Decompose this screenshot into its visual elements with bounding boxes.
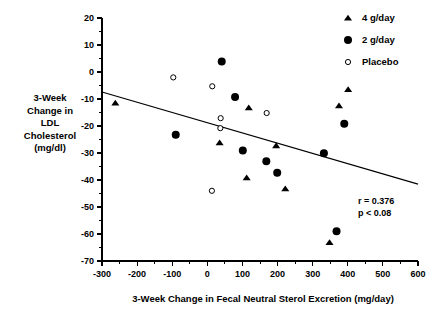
x-tick-label: -100 bbox=[163, 269, 181, 279]
data-point-triangle bbox=[344, 86, 352, 92]
y-axis-title-line: Cholesterol bbox=[24, 130, 76, 141]
y-axis-title-line: Change in bbox=[27, 105, 73, 116]
series-4-g-day bbox=[111, 86, 352, 245]
y-tick-label: -10 bbox=[81, 94, 94, 104]
y-tick-label: 0 bbox=[89, 67, 94, 77]
data-point-circle bbox=[172, 131, 180, 139]
y-tick-label: 10 bbox=[84, 40, 94, 50]
y-tick-label: -30 bbox=[81, 148, 94, 158]
y-axis-title-line: LDL bbox=[41, 117, 60, 128]
data-point-circle bbox=[218, 57, 226, 65]
y-tick-label: 20 bbox=[84, 13, 94, 23]
data-point-open-circle bbox=[171, 75, 176, 80]
data-point-circle bbox=[340, 120, 348, 128]
x-tick-label: 100 bbox=[235, 269, 250, 279]
regression-trend-line bbox=[102, 92, 418, 184]
trend-line-segment bbox=[102, 92, 418, 184]
legend-label-placebo: Placebo bbox=[362, 56, 399, 67]
data-point-circle bbox=[231, 93, 239, 101]
x-tick-label: -300 bbox=[93, 269, 111, 279]
scatter-plot-figure: 20100-10-20-30-40-50-60-70 -300-200-1000… bbox=[0, 0, 443, 313]
data-point-open-circle bbox=[264, 110, 269, 115]
data-point-triangle bbox=[245, 105, 253, 111]
data-point-triangle bbox=[216, 139, 224, 145]
r-value-annotation: r = 0.376 bbox=[358, 196, 394, 206]
y-axis-title: 3-WeekChange inLDLCholesterol(mg/dl) bbox=[24, 92, 76, 153]
p-value-annotation: p < 0.08 bbox=[358, 208, 391, 218]
axes bbox=[102, 18, 418, 261]
x-axis-tick-labels: -300-200-1000100200300400500600 bbox=[93, 269, 426, 279]
data-point-circle bbox=[262, 157, 270, 165]
data-point-open-circle bbox=[218, 116, 223, 121]
data-point-circle bbox=[239, 147, 247, 155]
y-axis-tick-labels: 20100-10-20-30-40-50-60-70 bbox=[81, 13, 94, 266]
data-point-triangle bbox=[111, 100, 119, 106]
x-tick-label: 200 bbox=[270, 269, 285, 279]
legend-marker-open-circle bbox=[345, 59, 350, 64]
series-2-g-day bbox=[172, 57, 349, 235]
x-tick-label: 400 bbox=[340, 269, 355, 279]
data-point-triangle bbox=[335, 102, 343, 108]
y-tick-label: -20 bbox=[81, 121, 94, 131]
legend-label-2-g-day: 2 g/day bbox=[362, 34, 395, 45]
y-axis-title-line: (mg/dl) bbox=[34, 142, 66, 153]
x-tick-label: 600 bbox=[410, 269, 425, 279]
data-point-open-circle bbox=[218, 126, 223, 131]
x-tick-label: 0 bbox=[205, 269, 210, 279]
plot-canvas: 20100-10-20-30-40-50-60-70 -300-200-1000… bbox=[0, 0, 443, 313]
legend-label-4-g-day: 4 g/day bbox=[362, 12, 395, 23]
legend-marker-circle bbox=[344, 36, 352, 44]
stats-annotation: r = 0.376p < 0.08 bbox=[358, 196, 394, 218]
x-axis-title: 3-Week Change in Fecal Neutral Sterol Ex… bbox=[132, 293, 394, 304]
data-point-open-circle bbox=[210, 84, 215, 89]
y-tick-label: -60 bbox=[81, 229, 94, 239]
x-tick-label: 300 bbox=[305, 269, 320, 279]
y-tick-label: -50 bbox=[81, 202, 94, 212]
data-point-triangle bbox=[243, 174, 251, 180]
y-axis-title-line: 3-Week bbox=[33, 92, 67, 103]
data-point-triangle bbox=[325, 239, 333, 245]
y-tick-label: -40 bbox=[81, 175, 94, 185]
data-point-triangle bbox=[281, 186, 289, 192]
y-tick-label: -70 bbox=[81, 256, 94, 266]
data-points bbox=[111, 57, 352, 245]
x-tick-label: -200 bbox=[128, 269, 146, 279]
legend: 4 g/day2 g/dayPlacebo bbox=[344, 12, 399, 67]
series-placebo bbox=[171, 75, 270, 194]
data-point-circle bbox=[333, 227, 341, 235]
data-point-open-circle bbox=[209, 188, 214, 193]
data-point-circle bbox=[320, 149, 328, 157]
data-point-circle bbox=[273, 169, 281, 177]
legend-marker-triangle bbox=[344, 15, 352, 21]
x-tick-label: 500 bbox=[375, 269, 390, 279]
